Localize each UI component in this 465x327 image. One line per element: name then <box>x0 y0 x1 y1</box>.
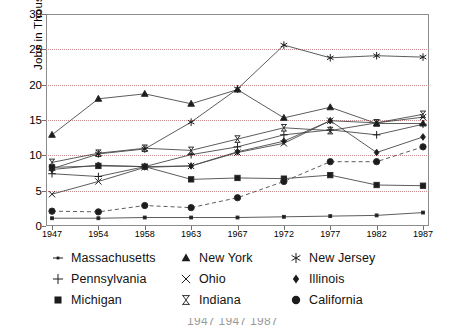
legend-label: California <box>309 293 363 307</box>
legend-item-ohio[interactable]: Ohio <box>178 272 288 286</box>
legend-item-california[interactable]: California <box>288 293 450 307</box>
series-layer <box>46 14 429 226</box>
x-tick-mark-1947 <box>52 226 53 230</box>
data-point-massachusetts-1954 <box>97 217 100 220</box>
x-tick-label-1982: 1982 <box>367 229 387 239</box>
data-point-california-1987 <box>420 144 426 150</box>
y-tick-mark-0 <box>42 226 46 227</box>
cross-icon <box>178 272 194 286</box>
data-point-california-1947 <box>49 208 55 214</box>
legend-label: Indiana <box>199 293 241 307</box>
y-tick-label-20: 20 <box>29 79 42 91</box>
legend-item-pennsylvania[interactable]: Pennsylvania <box>50 272 178 286</box>
x-tick-label-1967: 1967 <box>227 229 247 239</box>
x-tick-mark-1958 <box>145 226 146 230</box>
x-tick-mark-1967 <box>238 226 239 230</box>
x-tick-mark-1963 <box>191 226 192 230</box>
data-point-michigan-1987 <box>420 183 425 188</box>
data-point-pennsylvania-1982 <box>373 131 381 139</box>
x-tick-label-1954: 1954 <box>88 229 108 239</box>
data-point-new-york-1958 <box>141 90 148 96</box>
diamond-icon <box>288 272 304 286</box>
x-tick-mark-1987 <box>423 226 424 230</box>
data-point-massachusetts-1967 <box>236 216 239 219</box>
x-tick-label-1963: 1963 <box>181 229 201 239</box>
y-tick-label-15: 15 <box>29 114 42 126</box>
data-point-california-1977 <box>327 159 333 165</box>
data-point-california-1982 <box>373 159 379 165</box>
data-point-california-1958 <box>142 202 148 208</box>
data-point-california-1967 <box>234 195 240 201</box>
legend-label: Illinois <box>309 272 345 286</box>
x-tick-label-1958: 1958 <box>135 229 155 239</box>
x-tick-mark-1972 <box>284 226 285 230</box>
x-tick-label-1947: 1947 <box>42 229 62 239</box>
legend-label: New York <box>199 251 253 265</box>
x-tick-mark-1982 <box>377 226 378 230</box>
data-point-new-york-1977 <box>327 104 334 110</box>
legend-label: Ohio <box>199 272 226 286</box>
x-tick-label-1977: 1977 <box>320 229 340 239</box>
plus-icon <box>50 272 66 286</box>
data-point-pennsylvania-1963 <box>187 151 195 159</box>
data-point-michigan-1977 <box>328 172 333 177</box>
triangle-up-icon <box>178 251 194 265</box>
data-point-massachusetts-1958 <box>143 216 146 219</box>
data-point-california-1972 <box>281 178 287 184</box>
data-point-michigan-1982 <box>374 182 379 187</box>
data-point-california-1954 <box>95 209 101 215</box>
legend-item-new-jersey[interactable]: New Jersey <box>288 251 450 265</box>
hourglass-icon <box>178 293 194 307</box>
data-point-massachusetts-1947 <box>51 217 54 220</box>
data-point-michigan-1967 <box>235 175 240 180</box>
figure-caption: 1947 1947 1987 <box>0 318 465 327</box>
legend-label: Pennsylvania <box>71 272 147 286</box>
x-tick-mark-1977 <box>330 226 331 230</box>
y-tick-label-10: 10 <box>29 149 42 161</box>
legend-label: Massachusetts <box>71 251 156 265</box>
data-point-california-1963 <box>188 204 194 210</box>
legend-item-indiana[interactable]: Indiana <box>178 293 288 307</box>
line-chart-figure: Jobs in Thousands 051015202530 194719541… <box>0 0 465 327</box>
legend-label: Michigan <box>71 293 122 307</box>
data-point-indiana-1967 <box>235 136 241 143</box>
y-tick-label-30: 30 <box>29 8 42 20</box>
data-point-massachusetts-1987 <box>422 211 425 214</box>
legend-label: New Jersey <box>309 251 375 265</box>
y-tick-label-25: 25 <box>29 43 42 55</box>
data-point-michigan-1963 <box>188 177 193 182</box>
asterisk-icon <box>288 251 304 265</box>
data-point-massachusetts-1982 <box>375 214 378 217</box>
legend-item-massachusetts[interactable]: Massachusetts <box>50 251 178 265</box>
legend: Massachusetts New York New Jersey Pennsy… <box>50 247 450 310</box>
data-point-new-jersey-1963 <box>188 118 195 126</box>
data-point-massachusetts-1972 <box>282 215 285 218</box>
series-line-new-york <box>52 90 423 135</box>
data-point-massachusetts-1963 <box>190 216 193 219</box>
small-dot-icon <box>50 251 66 265</box>
square-icon <box>50 293 66 307</box>
data-point-michigan-1954 <box>96 163 101 168</box>
legend-item-illinois[interactable]: Illinois <box>288 272 450 286</box>
data-point-massachusetts-1977 <box>329 215 332 218</box>
data-point-new-york-1947 <box>49 131 56 137</box>
filled-circle-icon <box>288 293 304 307</box>
data-point-illinois-1982 <box>374 149 379 156</box>
caption-text: 1947 1947 1987 <box>0 318 465 327</box>
data-point-ohio-1947 <box>49 191 55 197</box>
data-point-pennsylvania-1987 <box>419 120 427 128</box>
x-tick-label-1972: 1972 <box>274 229 294 239</box>
x-tick-label-1987: 1987 <box>413 229 433 239</box>
x-tick-mark-1954 <box>98 226 99 230</box>
legend-item-new-york[interactable]: New York <box>178 251 288 265</box>
data-point-illinois-1987 <box>421 134 426 141</box>
data-point-michigan-1958 <box>142 164 147 169</box>
legend-item-michigan[interactable]: Michigan <box>50 293 178 307</box>
plot-area: Jobs in Thousands 051015202530 194719541… <box>46 14 429 226</box>
